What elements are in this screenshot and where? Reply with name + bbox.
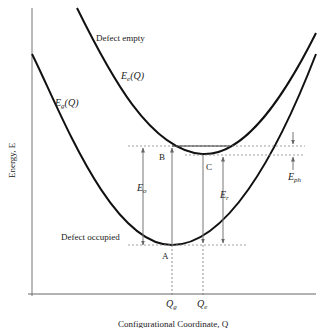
defect-occupied-label: Defect occupied bbox=[61, 232, 120, 242]
ground-state-curve bbox=[32, 54, 316, 245]
excited-state-curve bbox=[77, 8, 316, 154]
point-a-label: A bbox=[162, 251, 169, 261]
eo-label: Eo bbox=[136, 182, 147, 195]
configuration-coordinate-diagram: Defect empty Ee(Q) Eg(Q) Defect occupied… bbox=[0, 0, 322, 328]
er-label: Er bbox=[219, 189, 229, 202]
x-axis-label: Configurational Coordinate, Q bbox=[118, 319, 229, 328]
qg-tick-label: Qg bbox=[166, 298, 177, 311]
eph-label: Eph bbox=[287, 171, 302, 184]
point-b-label: B bbox=[159, 152, 165, 162]
y-axis-label: Energy, E bbox=[7, 142, 17, 178]
point-c-label: C bbox=[206, 162, 212, 172]
qe-tick-label: Qe bbox=[197, 298, 207, 311]
ee-curve-label: Ee(Q) bbox=[120, 70, 145, 83]
defect-empty-label: Defect empty bbox=[96, 33, 145, 43]
